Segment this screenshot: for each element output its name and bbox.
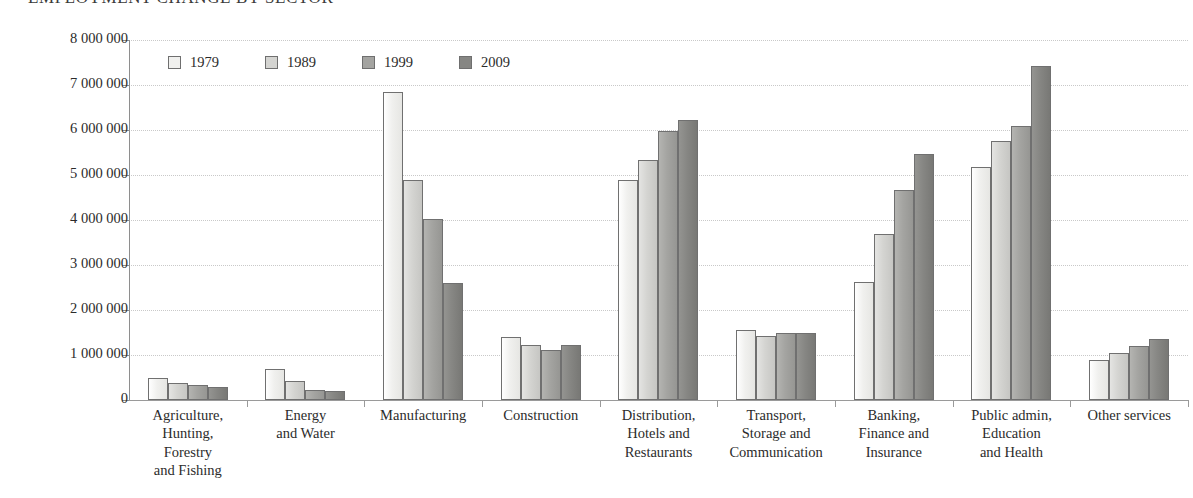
bar-group: [1070, 40, 1188, 400]
bar[interactable]: [443, 283, 463, 400]
bar[interactable]: [638, 160, 658, 400]
y-tick-label: 8 000 000: [18, 30, 128, 47]
category-label-line: Transport,: [711, 406, 841, 424]
x-axis-category-label: Distribution,Hotels andRestaurants: [594, 406, 724, 461]
bar-group-bars: [953, 40, 1071, 400]
bar[interactable]: [148, 378, 168, 400]
bar-group-bars: [364, 40, 482, 400]
bar[interactable]: [971, 167, 991, 400]
category-label-line: Hunting,: [123, 424, 253, 442]
bar[interactable]: [736, 330, 756, 400]
bar[interactable]: [403, 180, 423, 401]
bar[interactable]: [305, 390, 325, 400]
category-label-line: Agriculture,: [123, 406, 253, 424]
bar[interactable]: [423, 219, 443, 400]
category-label-line: Energy: [241, 406, 371, 424]
bar[interactable]: [1089, 360, 1109, 400]
bar[interactable]: [658, 131, 678, 400]
y-tick-label: 7 000 000: [18, 75, 128, 92]
y-tick-label: 2 000 000: [18, 300, 128, 317]
bar[interactable]: [1031, 66, 1051, 400]
category-label-line: Distribution,: [594, 406, 724, 424]
x-axis-category-label: Banking,Finance andInsurance: [829, 406, 959, 461]
bar[interactable]: [383, 92, 403, 400]
x-axis-category-label: Transport,Storage andCommunication: [711, 406, 841, 461]
bar[interactable]: [168, 383, 188, 400]
bar[interactable]: [265, 369, 285, 400]
category-label-line: Education: [947, 424, 1077, 442]
bar[interactable]: [776, 333, 796, 400]
y-tick-label: 1 000 000: [18, 345, 128, 362]
bar[interactable]: [874, 234, 894, 400]
x-axis-category-label: Manufacturing: [358, 406, 488, 424]
bar[interactable]: [325, 391, 345, 400]
bar[interactable]: [1129, 346, 1149, 400]
bar-group: [835, 40, 953, 400]
category-label-line: Storage and: [711, 424, 841, 442]
category-label-line: Banking,: [829, 406, 959, 424]
y-tick-label: 3 000 000: [18, 255, 128, 272]
bar[interactable]: [618, 180, 638, 400]
bar-group: [364, 40, 482, 400]
bar[interactable]: [854, 282, 874, 400]
bar[interactable]: [1149, 339, 1169, 400]
y-tick-label: 4 000 000: [18, 210, 128, 227]
bar[interactable]: [796, 333, 816, 401]
category-label-line: Communication: [711, 443, 841, 461]
category-label-line: Public admin,: [947, 406, 1077, 424]
bar-group: [482, 40, 600, 400]
bars-layer: [129, 40, 1188, 400]
bar-group-bars: [835, 40, 953, 400]
y-tick-label: 0: [18, 390, 128, 407]
bar-group: [717, 40, 835, 400]
bar[interactable]: [991, 141, 1011, 400]
category-label-line: and Health: [947, 443, 1077, 461]
x-axis-category-label: Other services: [1064, 406, 1193, 424]
x-axis-category-label: Energyand Water: [241, 406, 371, 443]
x-axis-category-label: Construction: [476, 406, 606, 424]
bar-group-bars: [247, 40, 365, 400]
bar-group: [953, 40, 1071, 400]
bar[interactable]: [1109, 353, 1129, 400]
bar[interactable]: [894, 190, 914, 400]
x-axis-category-label: Public admin,Educationand Health: [947, 406, 1077, 461]
category-label-line: and Fishing: [123, 461, 253, 479]
bar[interactable]: [188, 385, 208, 400]
bar-group-bars: [129, 40, 247, 400]
x-axis-category-label: Agriculture,Hunting,Forestryand Fishing: [123, 406, 253, 479]
bar-group: [129, 40, 247, 400]
bar-group-bars: [482, 40, 600, 400]
bar[interactable]: [501, 337, 521, 400]
bar-group: [247, 40, 365, 400]
bar[interactable]: [541, 350, 561, 400]
bar[interactable]: [208, 387, 228, 400]
category-label-line: Forestry: [123, 443, 253, 461]
bar-group-bars: [717, 40, 835, 400]
bar[interactable]: [756, 336, 776, 400]
y-tick-label: 5 000 000: [18, 165, 128, 182]
category-label-line: Hotels and: [594, 424, 724, 442]
bar[interactable]: [1011, 126, 1031, 400]
category-label-line: Finance and: [829, 424, 959, 442]
category-label-line: Insurance: [829, 443, 959, 461]
bar[interactable]: [285, 381, 305, 400]
category-label-line: and Water: [241, 424, 371, 442]
category-label-line: Other services: [1064, 406, 1193, 424]
x-axis-line: [129, 400, 1188, 401]
bar[interactable]: [521, 345, 541, 400]
bar-group-bars: [1070, 40, 1188, 400]
y-tick-label: 6 000 000: [18, 120, 128, 137]
category-label-line: Construction: [476, 406, 606, 424]
category-label-line: Manufacturing: [358, 406, 488, 424]
bar-group-bars: [600, 40, 718, 400]
category-label-line: Restaurants: [594, 443, 724, 461]
bar[interactable]: [561, 345, 581, 400]
bar[interactable]: [914, 154, 934, 400]
bar[interactable]: [678, 120, 698, 400]
bar-group: [600, 40, 718, 400]
